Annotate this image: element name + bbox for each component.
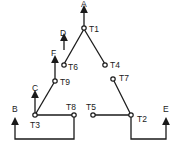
label-t1: T1 [89, 24, 99, 34]
label-f: F [51, 48, 56, 58]
label-t6: T6 [68, 62, 78, 72]
node-t8 [72, 113, 76, 117]
node-t4 [103, 63, 107, 67]
label-t3: T3 [30, 120, 40, 130]
edge-t7-t2 [113, 79, 131, 115]
node-t2 [129, 113, 133, 117]
label-c: C [32, 83, 38, 93]
node-t5 [91, 113, 95, 117]
label-t5: T5 [86, 102, 96, 112]
label-e: E [163, 104, 169, 114]
label-b: B [12, 104, 18, 114]
edge-t1-t6 [64, 29, 84, 64]
label-t8: T8 [66, 102, 76, 112]
loop-b [15, 115, 74, 139]
label-d: D [60, 28, 66, 38]
label-t4: T4 [110, 60, 120, 70]
node-t6 [62, 63, 66, 67]
edge-t1-t4 [84, 29, 105, 64]
node-t9 [53, 79, 57, 83]
label-a: A [81, 0, 87, 9]
label-t9: T9 [60, 77, 70, 87]
node-t1 [82, 26, 86, 30]
label-t7: T7 [119, 73, 129, 83]
track-diagram: T1 T2 T3 T4 T5 T6 T7 T8 T9 A B C D E F [0, 0, 175, 164]
label-t2: T2 [137, 114, 147, 124]
node-t3 [33, 113, 37, 117]
node-t7 [111, 77, 115, 81]
